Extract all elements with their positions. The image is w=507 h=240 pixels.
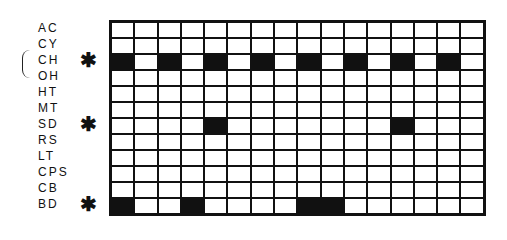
grid-cell	[437, 86, 460, 102]
grid-cell	[204, 102, 227, 118]
grid-cell	[181, 22, 204, 38]
grid-cell	[367, 54, 390, 70]
grid-cell	[344, 54, 367, 70]
grid-cell	[437, 198, 460, 214]
grid-cell	[321, 38, 344, 54]
grid-cell	[414, 102, 437, 118]
grid-cell	[251, 166, 274, 182]
grid-cell	[158, 134, 181, 150]
grid-cell	[134, 38, 157, 54]
grid-cell	[321, 70, 344, 86]
grid-cell	[227, 198, 250, 214]
grid-cell	[297, 118, 320, 134]
grid-cell	[297, 150, 320, 166]
grid-cell	[391, 198, 414, 214]
asterisk-icon: ✱	[80, 116, 97, 132]
grid-cell	[344, 134, 367, 150]
grid-cell	[134, 86, 157, 102]
grid-cell	[460, 150, 483, 166]
grid-cell	[274, 86, 297, 102]
grid-cell	[158, 102, 181, 118]
grid-cell	[344, 38, 367, 54]
grid-cell	[158, 150, 181, 166]
grid-cell	[181, 102, 204, 118]
grid-cell	[367, 22, 390, 38]
grid-cell	[134, 54, 157, 70]
grid-cell	[111, 150, 134, 166]
grid-cell	[297, 86, 320, 102]
grid-cell	[437, 22, 460, 38]
grid-cell	[181, 70, 204, 86]
grid-cell	[181, 118, 204, 134]
grid-cell	[134, 182, 157, 198]
grid-cell	[274, 38, 297, 54]
grid-cell	[134, 198, 157, 214]
grid-cell	[251, 54, 274, 70]
grid-cell	[321, 198, 344, 214]
grid-cell	[227, 54, 250, 70]
grid-cell	[204, 54, 227, 70]
grid-cell	[111, 102, 134, 118]
grid-cell	[158, 182, 181, 198]
grid-cell	[367, 134, 390, 150]
grid-cell	[251, 70, 274, 86]
grid-cell	[460, 198, 483, 214]
grid-cell	[111, 166, 134, 182]
grid-cell	[321, 166, 344, 182]
grid-cell	[321, 54, 344, 70]
grid-cell	[321, 86, 344, 102]
grid-cell	[134, 102, 157, 118]
grid-cell	[251, 150, 274, 166]
grid-cell	[297, 134, 320, 150]
grid-cell	[437, 38, 460, 54]
grid-cell	[344, 150, 367, 166]
row-label-cb: CB	[38, 180, 59, 196]
grid-cell	[227, 22, 250, 38]
grid-cell	[367, 182, 390, 198]
grid-cell	[437, 150, 460, 166]
row-label-cy: CY	[38, 36, 59, 52]
row-label-sd: SD	[38, 116, 59, 132]
grid-cell	[344, 86, 367, 102]
grid-cell	[367, 198, 390, 214]
grid-cell	[158, 166, 181, 182]
grid-cell	[321, 182, 344, 198]
grid-cell	[111, 70, 134, 86]
grid-cell	[204, 198, 227, 214]
grid-cell	[344, 118, 367, 134]
grid-cell	[204, 38, 227, 54]
grid-cell	[321, 134, 344, 150]
grid-cell	[344, 102, 367, 118]
grid-cell	[251, 198, 274, 214]
grid-cell	[274, 198, 297, 214]
grid-cell	[367, 102, 390, 118]
grid-cell	[344, 22, 367, 38]
grid-cell	[158, 38, 181, 54]
grid-cell	[391, 22, 414, 38]
grid-cell	[181, 86, 204, 102]
grid-cell	[111, 22, 134, 38]
grid-cell	[414, 150, 437, 166]
grid-cell	[251, 22, 274, 38]
grid-cell	[321, 118, 344, 134]
grid-cell	[367, 118, 390, 134]
grid-cell	[111, 134, 134, 150]
grid-cell	[251, 86, 274, 102]
grid-cell	[111, 182, 134, 198]
grid-cell	[414, 118, 437, 134]
grid-cell	[321, 22, 344, 38]
grid-cell	[181, 182, 204, 198]
grid-cell	[134, 134, 157, 150]
grid-cell	[391, 118, 414, 134]
grid-cell	[297, 102, 320, 118]
grid-cell	[111, 86, 134, 102]
row-label-cps: CPS	[38, 164, 69, 180]
row-label-lt: LT	[38, 148, 55, 164]
grid-cell	[391, 54, 414, 70]
grid-cell	[344, 198, 367, 214]
row-label-ht: HT	[38, 84, 58, 100]
bracket-ch-oh	[22, 50, 31, 78]
grid-cell	[204, 86, 227, 102]
grid-cell	[274, 70, 297, 86]
grid-cell	[391, 86, 414, 102]
